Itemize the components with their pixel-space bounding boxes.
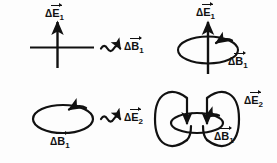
top-wavy-connector-graphic (101, 46, 120, 51)
label-delta-e1-top-right: ΔE1 (196, 7, 215, 21)
panel-top-left-graphic (30, 22, 94, 68)
label-delta-b1-top-connector: ΔB1 (124, 41, 144, 55)
label-delta-b1-top-right: ΔB1 (228, 56, 248, 70)
wavy-arrow-bottom (101, 116, 120, 121)
label-delta-e1-top-left: ΔE1 (45, 8, 64, 22)
electric-field-loop-left-outer (155, 92, 187, 146)
diagram-canvas (0, 0, 277, 163)
panel-bottom-left-graphic (33, 105, 93, 133)
label-delta-e2-bottom-right: ΔE2 (244, 95, 263, 109)
label-delta-e2-bottom-connector: ΔE2 (124, 112, 143, 126)
bottom-wavy-connector-graphic (101, 116, 120, 121)
wavy-arrow-top (101, 46, 120, 51)
figure-root: ΔE1 ΔB1 ΔE1 ΔB1 ΔB1 ΔE2 ΔE2 ΔB1 (0, 0, 277, 163)
label-delta-b1-bottom-left: ΔB1 (50, 136, 70, 150)
label-delta-b1-bottom-right: ΔB1 (214, 131, 234, 145)
magnetic-field-loop (171, 113, 223, 133)
magnetic-field-loop (33, 105, 93, 133)
